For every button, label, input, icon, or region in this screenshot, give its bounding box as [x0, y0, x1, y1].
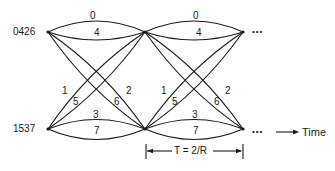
edge-label-5: 5	[172, 97, 178, 107]
edge-label-3: 3	[93, 110, 99, 120]
continuation-ellipsis-top: •••	[252, 27, 263, 37]
edge-label-2: 2	[126, 86, 132, 96]
continuation-ellipsis-bottom: •••	[252, 127, 263, 137]
edge-label-2: 2	[225, 86, 231, 96]
time-axis-label: Time	[302, 127, 326, 137]
period-left-arrowhead	[147, 149, 153, 153]
edge-4-section2	[145, 32, 243, 40]
state-label-top: 0426	[13, 27, 35, 37]
edge-label-6: 6	[114, 97, 120, 107]
edge-label-7: 7	[193, 126, 199, 136]
edge-0-section2	[145, 21, 243, 32]
edge-label-7: 7	[94, 126, 100, 136]
period-right-arrowhead	[236, 149, 242, 153]
period-label: T = 2/R	[174, 146, 207, 156]
edge-label-4: 4	[196, 28, 202, 38]
edge-label-5: 5	[73, 97, 79, 107]
time-arrow-head	[293, 130, 299, 135]
edge-label-0: 0	[90, 11, 96, 21]
edge-label-6: 6	[214, 97, 220, 107]
trellis-diagram	[0, 0, 335, 171]
edge-label-4: 4	[94, 28, 100, 38]
edge-label-1: 1	[62, 86, 68, 96]
edge-label-1: 1	[161, 86, 167, 96]
edge-label-0: 0	[193, 11, 199, 21]
edge-label-3: 3	[192, 110, 198, 120]
state-label-bottom: 1537	[13, 124, 35, 134]
